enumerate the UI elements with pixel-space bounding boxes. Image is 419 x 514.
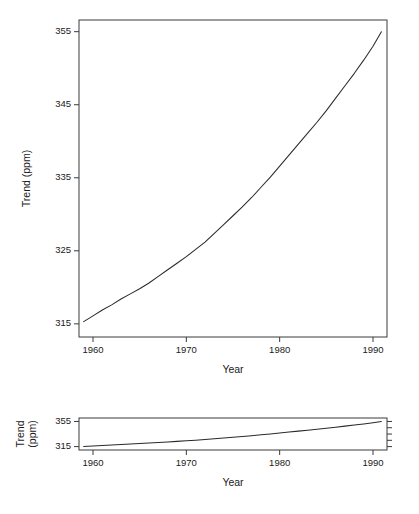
y-tick-label: 335 <box>55 171 71 182</box>
x-tick-label: 1960 <box>82 457 103 468</box>
x-tick-label: 1990 <box>362 344 383 355</box>
figure-background <box>0 0 419 514</box>
figure-canvas: 315325335345355 1960197019801990 Trend (… <box>0 0 419 514</box>
upper-y-axis-title: Trend (ppm) <box>20 150 32 207</box>
lower-y-axis-title-line2: (ppm) <box>26 420 38 447</box>
y-tick-label: 325 <box>55 244 71 255</box>
upper-x-axis-title: Year <box>222 363 244 375</box>
y-tick-label: 315 <box>55 440 71 451</box>
co2-trend-figure: 315325335345355 1960197019801990 Trend (… <box>0 0 419 514</box>
x-tick-label: 1980 <box>269 457 290 468</box>
lower-y-axis-title-line1: Trend <box>14 420 26 447</box>
x-tick-label: 1970 <box>176 457 197 468</box>
x-tick-label: 1960 <box>82 344 103 355</box>
x-tick-label: 1970 <box>176 344 197 355</box>
y-tick-label: 355 <box>55 415 71 426</box>
y-tick-label: 355 <box>55 25 71 36</box>
x-tick-label: 1980 <box>269 344 290 355</box>
x-tick-label: 1990 <box>362 457 383 468</box>
lower-x-axis-title: Year <box>222 476 244 488</box>
y-tick-label: 345 <box>55 98 71 109</box>
y-tick-label: 315 <box>55 317 71 328</box>
